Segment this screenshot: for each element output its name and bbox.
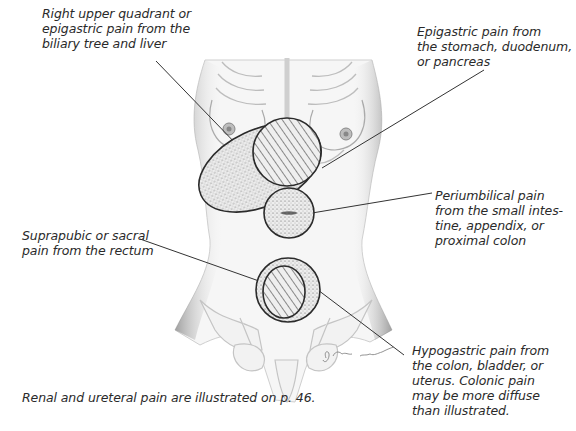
epigastric-region xyxy=(253,118,321,186)
hypogastric-label: Hypogastric pain from the colon, bladder… xyxy=(412,343,572,418)
ruq-label: Right upper quadrant or epigastric pain … xyxy=(42,6,242,51)
periumbilical-label: Periumbilical pain from the small intes-… xyxy=(435,188,575,248)
footnote: Renal and ureteral pain are illustrated … xyxy=(22,390,342,405)
suprapubic-label: Suprapubic or sacral pain from the rectu… xyxy=(22,228,182,258)
suprapubic-region xyxy=(263,266,305,318)
epigastric-label: Epigastric pain from the stomach, duoden… xyxy=(417,24,576,69)
